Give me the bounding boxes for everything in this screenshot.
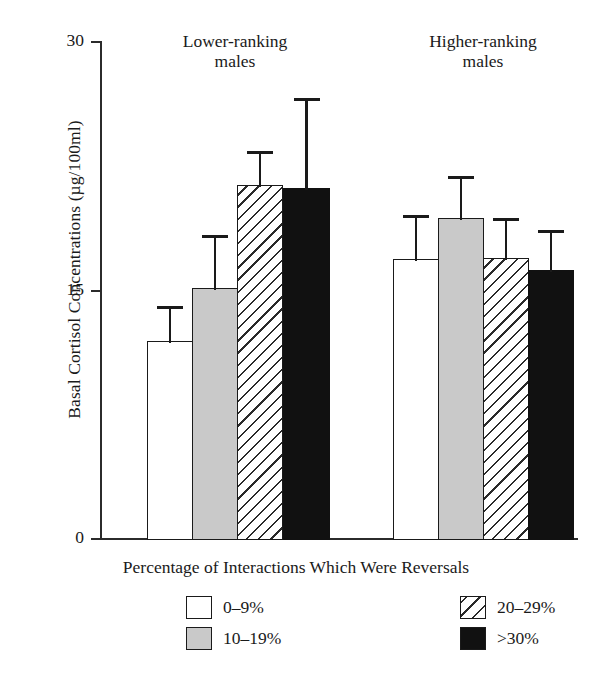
errorbar-stem-higher-0-9 — [415, 216, 418, 261]
bar-lower-0-9 — [147, 341, 193, 540]
errorbar-cap-lower-10-19 — [202, 235, 228, 238]
errorbar-cap-lower-20-29 — [247, 151, 273, 154]
group-label-higher-ranking: Higher-ranking males — [395, 31, 571, 72]
legend-item-20-29: 20–29% — [460, 592, 555, 623]
errorbar-cap-higher-20-29 — [493, 218, 519, 221]
legend-label-20-29: 20–29% — [497, 597, 555, 618]
errorbar-stem-higher-over-30 — [550, 231, 553, 272]
plot-area — [0, 0, 592, 683]
legend-swatch-white-icon — [186, 596, 212, 619]
bar-higher-0-9 — [393, 259, 439, 540]
legend-column-left: 0–9% 10–19% — [186, 592, 281, 654]
errorbar-cap-higher-over-30 — [538, 230, 564, 233]
chart-figure: Basal Cortisol Concentrations (µg/100ml)… — [0, 0, 592, 683]
errorbar-stem-higher-20-29 — [505, 219, 508, 260]
legend-column-right: 20–29% >30% — [460, 592, 555, 654]
x-axis-title: Percentage of Interactions Which Were Re… — [0, 557, 592, 578]
errorbar-stem-lower-10-19 — [214, 236, 217, 290]
errorbar-cap-higher-10-19 — [448, 176, 474, 179]
legend-label-over-30: >30% — [497, 628, 539, 649]
errorbar-stem-lower-over-30 — [305, 99, 308, 190]
legend-item-0-9: 0–9% — [186, 592, 281, 623]
errorbar-stem-higher-10-19 — [460, 177, 463, 220]
bar-higher-over-30 — [528, 270, 574, 540]
legend-swatch-gray-icon — [186, 627, 212, 650]
errorbar-stem-lower-0-9 — [169, 307, 172, 343]
legend-swatch-black-icon — [460, 627, 486, 650]
bar-lower-10-19 — [192, 288, 238, 540]
legend-label-10-19: 10–19% — [223, 628, 281, 649]
bar-higher-10-19 — [438, 218, 484, 540]
legend-item-10-19: 10–19% — [186, 623, 281, 654]
legend-label-0-9: 0–9% — [223, 597, 264, 618]
legend-swatch-hatch-icon — [460, 596, 486, 619]
group-label-lower-ranking: Lower-ranking males — [150, 31, 320, 72]
bar-lower-20-29 — [237, 185, 283, 540]
errorbar-cap-lower-over-30 — [294, 98, 320, 101]
errorbar-stem-lower-20-29 — [259, 152, 262, 187]
bar-lower-over-30 — [283, 188, 330, 540]
errorbar-cap-lower-0-9 — [157, 306, 183, 309]
errorbar-cap-higher-0-9 — [403, 215, 429, 218]
bar-higher-20-29 — [483, 258, 529, 540]
legend-item-over-30: >30% — [460, 623, 555, 654]
